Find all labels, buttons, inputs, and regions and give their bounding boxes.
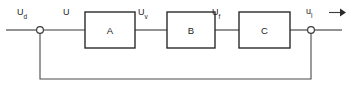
signal-sub-ud: d [24, 13, 28, 20]
signal-base-u: U [63, 7, 70, 17]
signal-base-ud: U [17, 7, 24, 17]
signal-label-error-signal: U [63, 8, 70, 17]
signal-base-uf: U [212, 7, 219, 17]
block-b-label: B [188, 25, 194, 36]
signal-label-block-b-output: Uf [212, 8, 220, 17]
signal-sub-uv: v [145, 13, 148, 20]
block-c-label: C [261, 25, 268, 36]
output-node [308, 27, 315, 34]
signal-label-block-a-output: Uv [138, 8, 148, 17]
signal-base-uv: U [138, 7, 145, 17]
diagram-canvas: A B C [0, 0, 348, 90]
block-a-label: A [107, 25, 114, 36]
signal-label-input-reference: Ud [17, 8, 27, 17]
control-loop-diagram: A B C Ud U Uv Uf ul [0, 0, 348, 90]
summing-node [37, 27, 44, 34]
output-arrow-icon [340, 9, 346, 17]
signal-label-output-signal: ul [306, 7, 312, 16]
